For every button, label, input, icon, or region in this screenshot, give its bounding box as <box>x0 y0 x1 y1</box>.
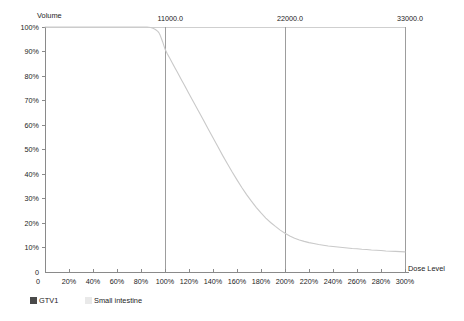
x-tick-label-260: 260% <box>348 277 367 286</box>
y-tick-label-60: 60% <box>25 121 40 130</box>
x-tick-label-40: 40% <box>86 277 101 286</box>
x-tick-label-60: 60% <box>110 277 125 286</box>
x-tick-label-80: 80% <box>134 277 149 286</box>
legend-label-small-intestine[interactable]: Small intestine <box>94 296 142 305</box>
x-tick-label-300: 300% <box>396 277 415 286</box>
dvh-curve-small-intestine <box>45 27 405 252</box>
x-tick-label-240: 240% <box>324 277 343 286</box>
x-tick-label-20: 20% <box>62 277 77 286</box>
y-tick-label-0: 0 <box>35 268 39 277</box>
x-axis-title: Dose Level <box>408 264 445 273</box>
x-tick-label-140: 140% <box>204 277 223 286</box>
x-tick-label-280: 280% <box>372 277 391 286</box>
x-tick-label-100: 100% <box>156 277 175 286</box>
legend-swatch-gtv1[interactable] <box>30 297 37 304</box>
y-tick-label-80: 80% <box>25 72 40 81</box>
legend-label-gtv1[interactable]: GTV1 <box>39 296 58 305</box>
x-tick-label-200: 200% <box>276 277 295 286</box>
y-tick-label-50: 50% <box>25 145 40 154</box>
x-tick-label-220: 220% <box>300 277 319 286</box>
y-tick-label-20: 20% <box>25 219 40 228</box>
y-tick-label-100: 100% <box>21 23 40 32</box>
y-axis-title: Volume <box>37 11 62 20</box>
legend-swatch-small-intestine[interactable] <box>85 297 92 304</box>
top-axis-label-1: 22000.0 <box>277 14 303 23</box>
dvh-plot-canvas: 11000.022000.033000.0100%90%80%70%60%50%… <box>0 0 464 321</box>
x-tick-label-160: 160% <box>228 277 247 286</box>
top-axis-label-0: 11000.0 <box>158 14 183 23</box>
x-origin-label: 0 <box>36 277 40 286</box>
y-tick-label-90: 90% <box>25 47 40 56</box>
y-tick-label-70: 70% <box>25 96 40 105</box>
top-axis-label-2: 33000.0 <box>397 14 423 23</box>
dvh-chart: 11000.022000.033000.0100%90%80%70%60%50%… <box>0 0 464 321</box>
y-tick-label-30: 30% <box>25 194 40 203</box>
y-tick-label-40: 40% <box>25 170 40 179</box>
y-tick-label-10: 10% <box>25 243 40 252</box>
x-tick-label-120: 120% <box>180 277 199 286</box>
x-tick-label-180: 180% <box>252 277 271 286</box>
